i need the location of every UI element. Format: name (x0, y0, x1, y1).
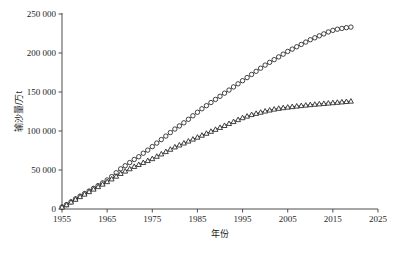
x-tick-label: 1965 (98, 214, 117, 224)
data-point-circle (272, 57, 276, 61)
sediment-transport-line-chart: 050 000100 000150 000200 000250 000 1955… (0, 0, 405, 256)
x-tick-label: 1955 (53, 214, 72, 224)
y-tick-label: 100 000 (27, 126, 57, 136)
series-line-2 (62, 101, 351, 207)
data-point-circle (240, 78, 244, 82)
data-point-circle (249, 72, 253, 76)
data-point-circle (146, 148, 150, 152)
x-axis: 19551965197519851995200520152025 (53, 209, 388, 224)
data-point-circle (218, 94, 222, 98)
data-point-circle (150, 144, 154, 148)
data-point-circle (155, 141, 159, 145)
data-point-circle (137, 155, 141, 159)
data-point-circle (182, 121, 186, 125)
data-point-circle (209, 100, 213, 104)
data-point-circle (164, 134, 168, 138)
data-point-circle (267, 60, 271, 64)
data-point-circle (186, 117, 190, 121)
data-point-circle (295, 45, 299, 49)
data-point-circle (322, 32, 326, 36)
data-point-circle (200, 107, 204, 111)
data-point-circle (231, 85, 235, 89)
data-point-circle (254, 69, 258, 73)
y-tick-label: 250 000 (27, 9, 57, 19)
y-tick-label: 200 000 (27, 48, 57, 58)
data-point-circle (128, 160, 132, 164)
data-point-circle (290, 47, 294, 51)
data-point-circle (349, 25, 353, 29)
data-point-circle (340, 26, 344, 30)
data-point-circle (317, 34, 321, 38)
data-point-circle (308, 38, 312, 42)
chart-container: 050 000100 000150 000200 000250 000 1955… (0, 0, 405, 256)
data-point-circle (304, 40, 308, 44)
data-point-circle (344, 25, 348, 29)
data-point-circle (299, 42, 303, 46)
x-tick-label: 2015 (324, 214, 343, 224)
data-point-circle (159, 137, 163, 141)
data-point-circle (213, 97, 217, 101)
y-axis: 050 000100 000150 000200 000250 000 (27, 9, 62, 214)
series-1 (60, 25, 353, 209)
data-point-circle (263, 63, 267, 67)
data-point-circle (195, 110, 199, 114)
y-tick-label: 150 000 (27, 87, 57, 97)
data-point-circle (227, 88, 231, 92)
x-tick-label: 1975 (143, 214, 162, 224)
x-tick-label: 2005 (279, 214, 298, 224)
data-point-circle (123, 164, 127, 168)
x-tick-label: 1985 (188, 214, 207, 224)
data-point-circle (141, 151, 145, 155)
y-tick-label: 0 (52, 204, 57, 214)
y-axis-title: 输沙量/万t (13, 91, 24, 133)
data-point-circle (177, 124, 181, 128)
data-point-circle (204, 103, 208, 107)
data-point-circle (281, 52, 285, 56)
x-tick-label: 1995 (234, 214, 253, 224)
data-point-circle (191, 114, 195, 118)
data-point-circle (173, 127, 177, 131)
data-point-circle (222, 91, 226, 95)
y-tick-label: 50 000 (31, 165, 56, 175)
data-point-circle (326, 30, 330, 34)
data-point-circle (331, 28, 335, 32)
data-point-triangle (348, 99, 353, 104)
data-point-circle (132, 157, 136, 161)
data-point-circle (335, 27, 339, 31)
data-point-circle (236, 82, 240, 86)
data-point-circle (313, 36, 317, 40)
x-axis-title: 年份 (211, 228, 229, 239)
data-series-group (60, 25, 354, 209)
series-2 (60, 99, 354, 209)
data-point-circle (286, 49, 290, 53)
data-point-circle (276, 55, 280, 59)
data-point-circle (168, 130, 172, 134)
data-point-circle (258, 66, 262, 70)
x-tick-label: 2025 (369, 214, 388, 224)
data-point-circle (245, 75, 249, 79)
